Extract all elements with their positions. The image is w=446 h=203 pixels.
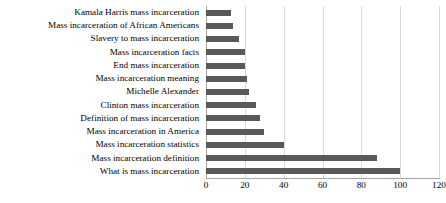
category-label: Kamala Harris mass incarceration bbox=[74, 6, 199, 19]
bar-row bbox=[206, 99, 439, 112]
category-label: Slavery to mass incarceration bbox=[91, 32, 199, 45]
bar-row bbox=[206, 6, 439, 19]
bar-row bbox=[206, 59, 439, 72]
category-label: Mass incarceration facts bbox=[110, 46, 199, 59]
bar bbox=[206, 23, 233, 29]
bar bbox=[206, 89, 249, 95]
bar bbox=[206, 63, 245, 69]
value-tick-label-0: 0 bbox=[204, 180, 209, 190]
value-tick-label-120: 120 bbox=[432, 180, 446, 190]
category-label: Definition of mass incarceration bbox=[80, 112, 199, 125]
bar bbox=[206, 115, 260, 121]
bar-row bbox=[206, 112, 439, 125]
bar-row bbox=[206, 165, 439, 178]
bar-row bbox=[206, 85, 439, 98]
bar-row bbox=[206, 46, 439, 59]
bar bbox=[206, 168, 400, 174]
bar bbox=[206, 36, 239, 42]
bar-row bbox=[206, 138, 439, 151]
bar bbox=[206, 155, 377, 161]
category-label: Mass incarceration definition bbox=[91, 152, 199, 165]
bar-row bbox=[206, 72, 439, 85]
category-axis-labels: Kamala Harris mass incarcerationMass inc… bbox=[0, 6, 203, 178]
plot-area bbox=[206, 6, 439, 178]
category-label: Mass incarceration of African Americans bbox=[48, 19, 199, 32]
bar-row bbox=[206, 125, 439, 138]
category-label: Michelle Alexander bbox=[126, 85, 199, 98]
bars-layer bbox=[206, 6, 439, 178]
value-tick-label-40: 40 bbox=[279, 180, 288, 190]
value-tick-label-60: 60 bbox=[318, 180, 327, 190]
bar bbox=[206, 129, 264, 135]
value-axis-tick-labels: 020406080100120 bbox=[0, 180, 445, 198]
bar-row bbox=[206, 152, 439, 165]
bar bbox=[206, 76, 247, 82]
bar bbox=[206, 142, 284, 148]
value-tick-label-80: 80 bbox=[357, 180, 366, 190]
category-axis-line bbox=[206, 178, 440, 179]
category-label: Mass incarceration statistics bbox=[95, 138, 199, 151]
bar bbox=[206, 10, 231, 16]
bar bbox=[206, 102, 256, 108]
value-tick-label-20: 20 bbox=[240, 180, 249, 190]
bar-row bbox=[206, 19, 439, 32]
category-label: Mass incarceration in America bbox=[86, 125, 199, 138]
bar-row bbox=[206, 32, 439, 45]
bar bbox=[206, 49, 245, 55]
category-label: What is mass incarceration bbox=[100, 165, 199, 178]
gridline-120 bbox=[439, 6, 440, 178]
category-label: Mass incarceration meaning bbox=[95, 72, 199, 85]
category-label: Clinton mass incarceration bbox=[101, 99, 199, 112]
value-tick-label-100: 100 bbox=[393, 180, 407, 190]
category-label: End mass incarceration bbox=[113, 59, 199, 72]
